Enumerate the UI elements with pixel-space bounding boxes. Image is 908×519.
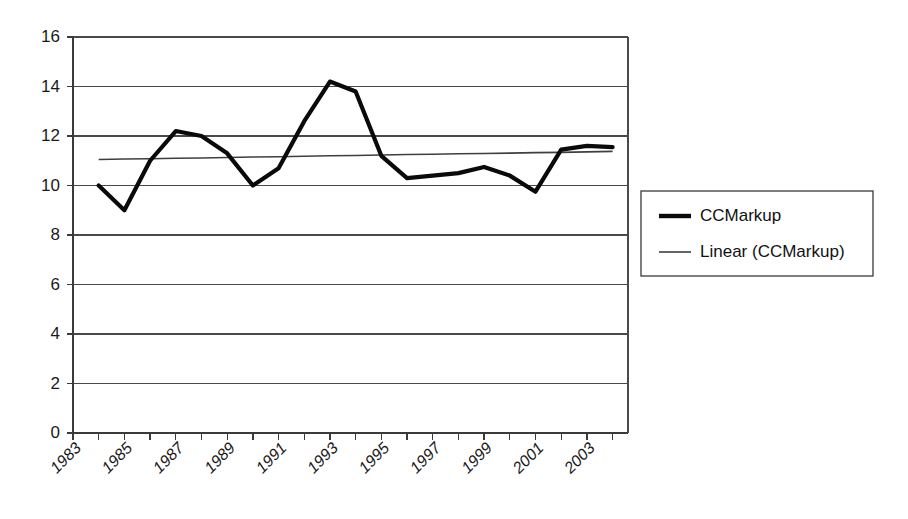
y-axis-group: 0246810121416: [41, 27, 73, 442]
y-tick-label: 0: [51, 423, 60, 442]
x-axis-group: 1983198519871989199119931995199719992001…: [47, 433, 628, 477]
x-tick-label: 1999: [458, 439, 495, 476]
y-tick-label: 14: [41, 77, 60, 96]
chart-container: 0246810121416 19831985198719891991199319…: [0, 0, 908, 519]
y-tick-label: 6: [51, 275, 60, 294]
series-line-linear-ccmarkup: [99, 151, 613, 159]
y-tick-label: 2: [51, 374, 60, 393]
gridlines-group: [73, 37, 628, 433]
x-tick-label: 1985: [98, 439, 135, 476]
x-tick-label: 2003: [560, 439, 598, 477]
x-tick-label: 1987: [150, 438, 188, 476]
y-tick-label: 4: [51, 324, 60, 343]
x-tick-marks: [73, 433, 613, 440]
x-tick-label: 1995: [355, 439, 392, 476]
y-tick-marks: [67, 37, 73, 433]
y-tick-label: 10: [41, 176, 60, 195]
line-chart: 0246810121416 19831985198719891991199319…: [0, 0, 908, 519]
x-tick-label: 1993: [304, 439, 341, 476]
x-tick-label: 1991: [252, 439, 289, 476]
x-tick-label: 1989: [201, 439, 238, 476]
y-tick-labels: 0246810121416: [41, 27, 60, 442]
y-tick-label: 12: [41, 126, 60, 145]
legend-label-linear-ccmarkup: Linear (CCMarkup): [700, 242, 845, 261]
x-tick-labels: 1983198519871989199119931995199719992001…: [47, 438, 598, 477]
x-tick-label: 1997: [407, 438, 445, 476]
y-tick-label: 16: [41, 27, 60, 46]
y-tick-label: 8: [51, 225, 60, 244]
legend-box: [641, 191, 873, 276]
legend: CCMarkup Linear (CCMarkup): [641, 191, 873, 276]
series-line-ccmarkup: [99, 82, 613, 211]
legend-label-ccmarkup: CCMarkup: [700, 206, 781, 225]
x-tick-label: 2001: [509, 439, 547, 477]
x-tick-label: 1983: [47, 439, 84, 476]
